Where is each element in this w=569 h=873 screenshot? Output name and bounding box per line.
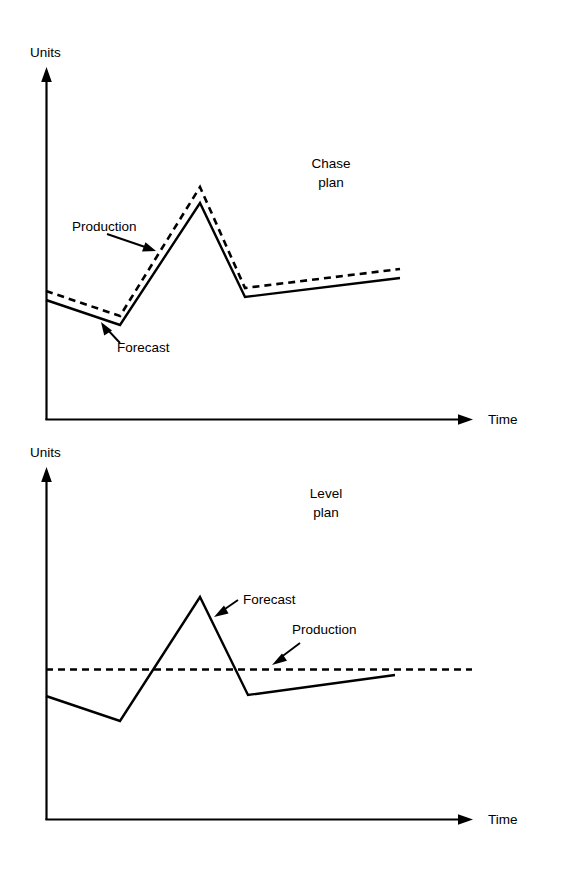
level-x-axis-arrowhead (458, 814, 473, 825)
chase-plan-panel: Units Time Chase plan Production Forecas… (30, 45, 518, 427)
chase-plan-title-line1: Chase (311, 156, 350, 171)
aggregate-planning-figure: Units Time Chase plan Production Forecas… (0, 0, 569, 873)
level-x-axis-label: Time (488, 812, 518, 827)
chase-production-annotation-arrow (107, 234, 156, 252)
chase-x-axis-label: Time (488, 412, 518, 427)
level-y-axis-arrowhead (41, 467, 52, 482)
level-forecast-series (46, 597, 395, 721)
chase-production-annotation-label: Production (72, 219, 137, 234)
level-y-axis-label: Units (30, 445, 61, 460)
level-plan-title-line1: Level (310, 486, 342, 501)
level-production-annotation-arrow (272, 643, 300, 665)
chase-y-axis-arrowhead (41, 67, 52, 82)
chase-x-axis-arrowhead (458, 414, 473, 425)
chase-y-axis-label: Units (30, 45, 61, 60)
level-plan-panel: Units Time Level plan Forecast Productio… (30, 445, 518, 827)
level-production-annotation-label: Production (292, 622, 357, 637)
figure-root: Units Time Chase plan Production Forecas… (0, 0, 569, 873)
level-plan-title-line2: plan (313, 505, 339, 520)
level-forecast-annotation-arrow (214, 600, 238, 617)
chase-forecast-annotation-label: Forecast (117, 340, 170, 355)
chase-plan-title-line2: plan (318, 175, 344, 190)
level-forecast-annotation-label: Forecast (243, 592, 296, 607)
